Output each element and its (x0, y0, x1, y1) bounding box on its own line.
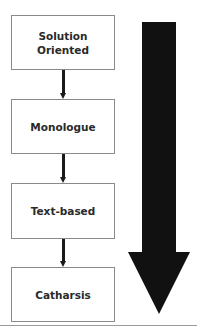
large-down-arrow-icon (0, 0, 197, 335)
bottom-divider (0, 325, 197, 326)
